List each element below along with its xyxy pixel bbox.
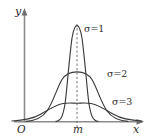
sigma-3-label: σ=3 <box>112 97 132 107</box>
x-axis-label: x <box>133 124 139 135</box>
sigma-2-label: σ=2 <box>107 69 127 79</box>
normal-distribution-figure: y x O m σ=1 σ=2 σ=3 <box>0 0 146 140</box>
y-axis-arrowhead <box>22 8 28 16</box>
y-axis-label: y <box>15 6 21 17</box>
origin-label: O <box>17 124 26 135</box>
mean-tick-label: m <box>73 124 83 135</box>
sigma-1-label: σ=1 <box>84 24 104 34</box>
